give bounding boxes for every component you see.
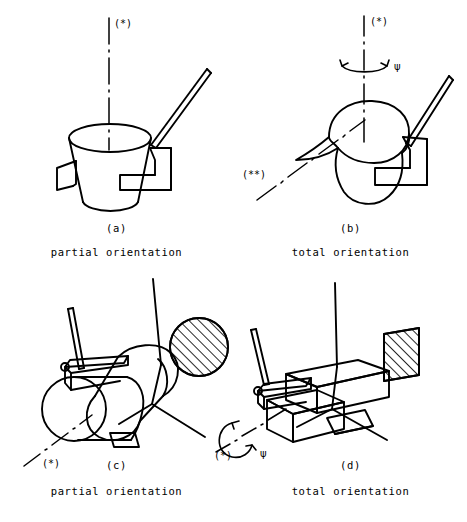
cup-body — [69, 124, 151, 211]
probe-rod — [151, 69, 211, 148]
panel-b-index: (b) — [234, 222, 467, 234]
chute-rails — [327, 410, 373, 434]
chute-frame — [297, 283, 387, 440]
axis-label-star-b: (*) — [370, 16, 388, 27]
panel-d-index: (d) — [234, 459, 467, 471]
probe-rod — [61, 308, 84, 371]
axis-label-star-d: (*) — [214, 450, 232, 461]
panel-d-caption: total orientation — [234, 485, 467, 497]
panel-c: (*) (c) partial orientation — [0, 261, 233, 522]
cylinder-end-face — [42, 377, 106, 441]
panel-b-caption: total orientation — [234, 246, 467, 258]
rotation-label-psi-b: ψ — [394, 61, 401, 72]
panel-d-drawing: (*) ψ — [234, 261, 467, 461]
panel-b-drawing: (*) ψ (**) — [234, 0, 467, 215]
panel-c-caption: partial orientation — [0, 485, 233, 497]
gripper-jaw — [65, 356, 128, 390]
panel-c-drawing: (*) — [0, 261, 233, 461]
axis-line-double-star — [257, 120, 365, 200]
axis-label-double-star-b: (**) — [242, 169, 266, 180]
probe-rod — [406, 76, 453, 146]
rotation-label-psi-d: ψ — [260, 448, 267, 459]
panel-b: (*) ψ (**) (b) total orientation — [234, 0, 467, 261]
block-part — [267, 360, 389, 442]
probe-rod — [251, 329, 269, 395]
panel-a: (*) (a) partial orientation — [0, 0, 233, 261]
cylinder-barrel — [74, 377, 143, 440]
cup-bracket — [57, 148, 171, 190]
panel-a-caption: partial orientation — [0, 246, 233, 258]
panel-c-index: (c) — [0, 459, 233, 471]
axis-label-star-a: (*) — [114, 18, 132, 29]
panel-a-index: (a) — [0, 222, 233, 234]
panel-a-drawing: (*) — [0, 0, 233, 215]
pitcher-body — [296, 101, 409, 204]
panel-d: (*) ψ (d) total orientation — [234, 261, 467, 522]
